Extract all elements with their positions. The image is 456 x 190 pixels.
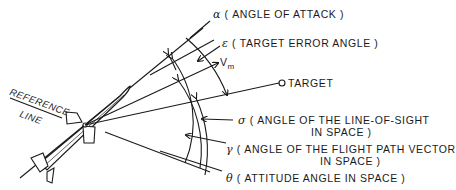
theta-leader <box>160 151 222 171</box>
label-target: TARGET <box>288 77 333 89</box>
reference-line <box>105 132 210 172</box>
target-marker <box>279 80 285 86</box>
label-alpha: α ( ANGLE OF ATTACK ) <box>213 8 344 21</box>
velocity-vector <box>85 63 218 125</box>
label-theta: θ ( ATTITUDE ANGLE IN SPACE ) <box>226 172 405 185</box>
sigma-leader <box>202 119 233 120</box>
label-epsilon: ε ( TARGET ERROR ANGLE ) <box>222 37 378 50</box>
label-sigma-line2: IN SPACE ) <box>311 126 372 138</box>
label-gamma-line2: IN SPACE ) <box>320 155 381 167</box>
theta-arc <box>172 58 193 163</box>
alpha-leader <box>190 21 210 38</box>
label-vm: Vm <box>220 56 235 73</box>
